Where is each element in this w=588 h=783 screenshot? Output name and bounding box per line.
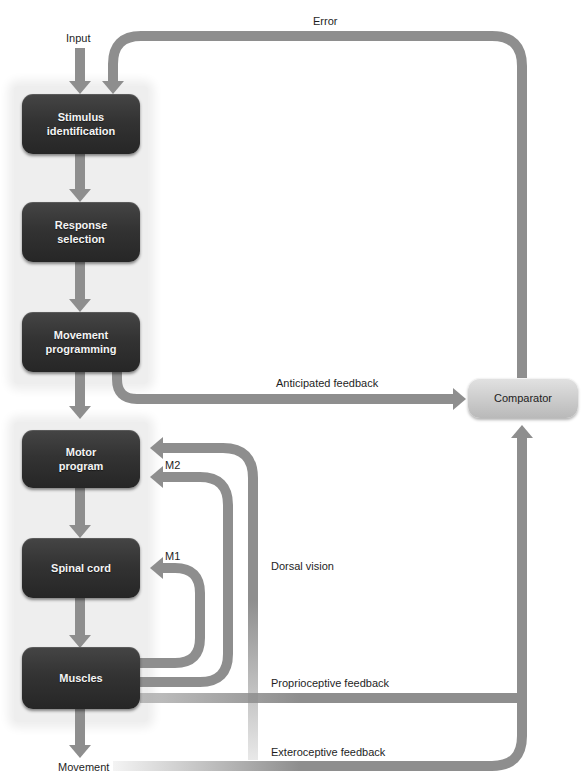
arrowhead-to-motor [69, 406, 91, 419]
spinal-cord-label: Spinal cord [51, 561, 111, 575]
arrowhead-to-response [69, 189, 91, 202]
m2-loop-arrow-shaft [140, 477, 228, 682]
response-selection-label: Response selection [55, 218, 108, 246]
input-arrowhead [69, 81, 91, 94]
m1-loop-arrow-shaft [140, 568, 200, 663]
arrowhead-to-spinal [69, 525, 91, 538]
error-arrow-shaft [113, 36, 522, 378]
muscles-box: Muscles [22, 647, 140, 709]
m1-arrowhead [150, 557, 163, 579]
exteroceptive-arrowhead [511, 425, 533, 438]
m1-label: M1 [165, 550, 180, 563]
spinal-cord-box: Spinal cord [22, 538, 140, 598]
muscles-label: Muscles [59, 671, 102, 685]
comparator-label: Comparator [494, 392, 552, 404]
error-arrowhead [102, 81, 124, 94]
movement-label: Movement [58, 761, 109, 774]
movement-programming-label: Movement programming [46, 328, 117, 356]
anticipated-feedback-arrowhead [453, 388, 466, 410]
m2-arrowhead [150, 466, 163, 488]
dorsal-vision-arrowhead [150, 437, 163, 459]
dorsal-vision-label: Dorsal vision [271, 560, 334, 573]
exteroceptive-feedback-line [300, 437, 522, 766]
comparator-box: Comparator [468, 378, 578, 418]
anticipated-feedback-label: Anticipated feedback [276, 377, 378, 390]
error-label: Error [313, 15, 337, 28]
input-label: Input [66, 32, 90, 45]
stimulus-identification-box: Stimulus identification [22, 94, 140, 154]
movement-programming-box: Movement programming [22, 312, 140, 372]
motor-program-label: Motor program [59, 445, 104, 473]
response-selection-box: Response selection [22, 202, 140, 262]
stimulus-identification-label: Stimulus identification [47, 110, 115, 138]
arrowhead-to-movement [69, 745, 91, 758]
exteroceptive-feedback-label: Exteroceptive feedback [271, 746, 385, 759]
arrowhead-to-programming [69, 299, 91, 312]
proprioceptive-feedback-label: Proprioceptive feedback [271, 677, 389, 690]
motor-program-box: Motor program [22, 430, 140, 488]
m2-label: M2 [165, 459, 180, 472]
